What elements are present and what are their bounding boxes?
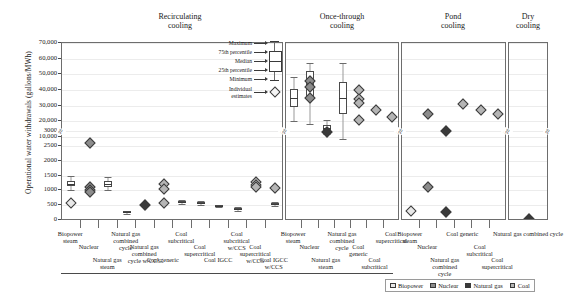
- key-arrow: [254, 79, 265, 80]
- y-tick-label: 1000: [0, 185, 57, 192]
- gridline: [509, 106, 547, 107]
- whisker-cap: [307, 124, 314, 125]
- gridline: [286, 146, 398, 147]
- y-tick-label: 70,000: [0, 38, 57, 45]
- x-tick: [117, 219, 118, 228]
- key-individual-diamond: [269, 86, 280, 97]
- key-label-maximum: Maximum: [229, 40, 252, 46]
- legend-item-coal[interactable]: Coal: [510, 282, 530, 289]
- group-title-line1: Dry: [522, 12, 534, 21]
- gridline: [402, 74, 505, 75]
- median-line: [290, 98, 298, 99]
- x-tick: [334, 219, 335, 228]
- whisker-cap: [271, 206, 278, 207]
- whisker-cap: [123, 214, 130, 215]
- gridline: [62, 121, 282, 122]
- x-tick: [135, 219, 136, 228]
- x-tick: [191, 219, 192, 228]
- key-label-individual-line1: Individual: [229, 86, 252, 92]
- group-title-1: Recirculatingcooling: [125, 12, 235, 31]
- key-arrow: [254, 92, 265, 93]
- gridline: [286, 43, 398, 44]
- gridline: [62, 131, 282, 132]
- data-point-coal: [458, 98, 469, 109]
- x-axis-label: Coal generic: [146, 256, 180, 263]
- gridline: [286, 190, 398, 191]
- median-line: [197, 203, 205, 204]
- whisker-cap: [179, 204, 186, 205]
- y-tick-label: 10,000: [0, 132, 57, 139]
- data-point-biopower: [405, 205, 416, 216]
- x-axis-label: Coal IGCC: [201, 256, 235, 263]
- whisker-cap: [216, 207, 223, 208]
- x-tick: [172, 219, 173, 228]
- x-axis-label: Nuclear: [72, 243, 106, 250]
- boxplot-key: Maximum75th percentileMedian25th percent…: [196, 36, 284, 100]
- x-axis-baseline: [508, 219, 548, 220]
- data-point-coal: [354, 114, 365, 125]
- y-tick-label: 60,000: [0, 54, 57, 61]
- key-label-75th-percentile: 75th percentile: [219, 49, 252, 55]
- gridline: [62, 106, 282, 107]
- whisker-cap: [68, 176, 75, 177]
- median-line: [104, 184, 112, 185]
- key-label-25th-percentile: 25th percentile: [219, 67, 252, 73]
- gridline: [509, 121, 547, 122]
- key-label-individual-line2: estimates: [231, 93, 252, 99]
- whisker-cap: [234, 211, 241, 212]
- gridline: [402, 176, 505, 177]
- x-tick: [228, 219, 229, 228]
- group-title-line1: Recirculating: [158, 12, 201, 21]
- plot-area: [402, 43, 505, 219]
- data-point-natural-gas: [440, 206, 451, 217]
- group-title-2: Once-throughcooling: [287, 12, 397, 31]
- gridline: [286, 59, 398, 60]
- legend-swatch: [510, 283, 516, 289]
- y-tick-label: 50,000: [0, 69, 57, 76]
- data-point-biopower: [66, 198, 77, 209]
- group-title-line2: cooling: [168, 21, 192, 30]
- y-tick-label: 500: [0, 200, 57, 207]
- gridline: [509, 59, 547, 60]
- gridline: [509, 90, 547, 91]
- gridline: [402, 205, 505, 206]
- key-label-median: Median: [235, 58, 252, 64]
- data-point-coal: [493, 108, 504, 119]
- gridline: [509, 205, 547, 206]
- median-line: [234, 209, 242, 210]
- data-point-coal: [269, 182, 280, 193]
- gridline: [402, 146, 505, 147]
- median-line: [178, 202, 186, 203]
- x-axis-label: Nuclear: [294, 243, 324, 250]
- y-tick-label: 2000: [0, 156, 57, 163]
- legend-label: Coal: [518, 282, 530, 289]
- gridline: [509, 161, 547, 162]
- legend-item-nuclear[interactable]: Nuclear: [430, 282, 458, 289]
- group-title-line1: Pond: [445, 12, 461, 21]
- legend-item-biopower[interactable]: Biopower: [390, 282, 423, 289]
- x-tick: [383, 219, 384, 228]
- x-tick: [318, 219, 319, 228]
- gridline: [62, 205, 282, 206]
- x-tick: [436, 219, 437, 228]
- x-axis-label: Coal subcritical: [360, 256, 390, 270]
- data-point-natural-gas: [440, 125, 451, 136]
- gridline: [62, 146, 282, 147]
- x-tick: [80, 219, 81, 228]
- x-tick: [366, 219, 367, 228]
- data-point-coal: [158, 198, 169, 209]
- legend-item-natural-gas[interactable]: Natural gas: [465, 282, 502, 289]
- gridline: [62, 161, 282, 162]
- plot-panel-2: [285, 42, 399, 219]
- group-title-3: Pondcooling: [408, 12, 498, 31]
- y-tick-label: 30,000: [0, 101, 57, 108]
- legend-label: Biopower: [398, 282, 423, 289]
- group-title-line2: cooling: [516, 21, 540, 30]
- data-point-nuclear: [423, 108, 434, 119]
- gridline: [402, 43, 505, 44]
- gridline: [402, 161, 505, 162]
- group-title-line2: cooling: [330, 21, 354, 30]
- whisker-cap: [197, 205, 204, 206]
- key-arrow: [254, 70, 265, 71]
